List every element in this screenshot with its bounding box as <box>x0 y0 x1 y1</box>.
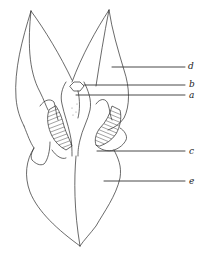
right-upper-petal-d <box>72 10 129 130</box>
label-b: b <box>189 79 195 89</box>
label-d: d <box>188 61 194 71</box>
diagram-drawing <box>0 0 207 264</box>
flower-diagram: d b a c e <box>0 0 207 264</box>
anther-b <box>70 82 84 91</box>
left-upper-petal <box>16 11 72 126</box>
lower-petal-e <box>27 148 121 246</box>
central-column <box>61 82 90 156</box>
label-a: a <box>189 90 194 100</box>
right-lateral-lobe-c <box>90 100 127 153</box>
label-c: c <box>189 146 194 156</box>
label-e: e <box>189 176 194 186</box>
